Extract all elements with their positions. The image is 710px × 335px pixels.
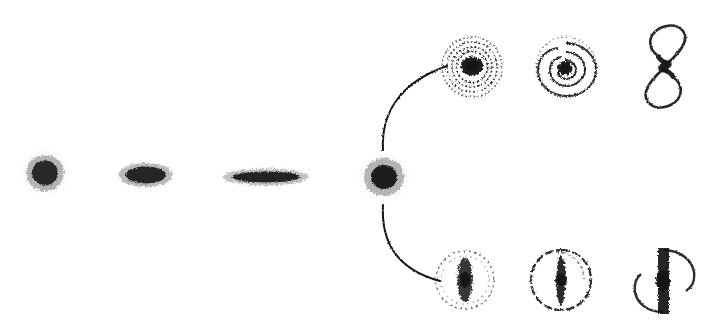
galaxy-node-sba: [436, 246, 494, 316]
fork-curve-upper: [383, 66, 447, 150]
galaxy-node-e3: [110, 150, 184, 202]
fork-curve-lower: [383, 205, 440, 281]
galaxy-node-e7: [215, 158, 319, 198]
hubble-tuning-fork-diagram: [0, 0, 710, 335]
galaxy-node-e0: [8, 138, 82, 210]
galaxy-node-sa: [442, 37, 502, 97]
galaxy-node-sbb: [531, 246, 591, 316]
galaxy-node-sc: [646, 26, 686, 108]
galaxy-node-sb: [536, 37, 596, 97]
diagram-canvas: [0, 0, 710, 335]
upper-branch-group: [442, 26, 685, 108]
galaxy-node-s0: [348, 141, 420, 213]
lower-branch-group: [436, 246, 694, 316]
elliptical-branch-group: [8, 138, 420, 213]
galaxy-node-sbc: [635, 248, 694, 314]
